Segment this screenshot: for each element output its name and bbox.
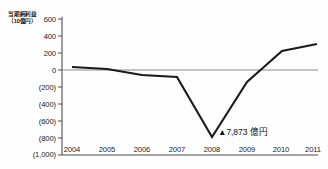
x-tick-label: 2006 xyxy=(134,146,151,154)
x-tick-label: 2005 xyxy=(99,146,116,154)
x-tick-label: 2004 xyxy=(64,146,81,154)
x-tick-label: 2011 xyxy=(305,146,321,154)
x-tick-label: 2009 xyxy=(239,146,256,154)
trough-value-annotation: ▲7,873 億円 xyxy=(218,128,268,137)
x-tick-label: 2007 xyxy=(169,146,186,154)
x-tick-label: 2008 xyxy=(204,146,221,154)
net-income-line-chart: 当期純利益 （10億円） 600 400 200 0 (200) (400) (… xyxy=(0,0,328,169)
x-axis-tick-labels: 2004 2005 2006 2007 2008 2009 2010 2011 xyxy=(0,0,328,169)
x-tick-label: 2010 xyxy=(273,146,290,154)
